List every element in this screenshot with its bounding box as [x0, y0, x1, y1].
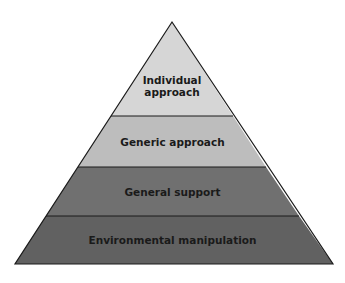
pyramid-level-individual: [111, 22, 233, 116]
label-line: Individual: [122, 74, 222, 86]
label-generic-approach: Generic approach: [100, 136, 245, 148]
label-general-support: General support: [90, 186, 255, 198]
label-line: approach: [122, 86, 222, 98]
label-individual-approach: Individual approach: [122, 74, 222, 98]
label-environmental-manipulation: Environmental manipulation: [60, 234, 285, 246]
